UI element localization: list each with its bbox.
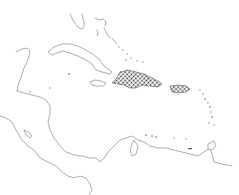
south-america-coast (104, 136, 232, 166)
central-america-coast (17, 91, 104, 162)
trinidad-island (208, 141, 216, 150)
lake-nicaragua (24, 130, 32, 138)
isla-juventud (68, 73, 70, 75)
hispaniola-highlight (112, 70, 162, 88)
caribbean-map (0, 0, 239, 195)
lake-maracaibo (130, 140, 138, 156)
cuba-island (48, 44, 112, 74)
lesser-antilles (199, 89, 215, 126)
yucatan-coast (16, 48, 30, 91)
jamaica-island (90, 80, 106, 86)
puerto-rico-highlight (170, 85, 190, 93)
bahamas-islands (95, 18, 144, 63)
florida-coast (70, 14, 84, 29)
